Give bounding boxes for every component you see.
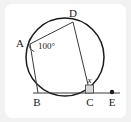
label-D: D xyxy=(69,7,77,19)
point-marker-E xyxy=(110,90,114,94)
label-angle-100: 100° xyxy=(38,41,56,51)
geometry-figure: A B C D E 100° x xyxy=(0,0,131,122)
label-C: C xyxy=(86,96,93,108)
label-B: B xyxy=(33,96,40,108)
label-E: E xyxy=(109,96,116,108)
label-angle-x: x xyxy=(87,75,92,85)
label-A: A xyxy=(16,37,24,49)
geometry-canvas: A B C D E 100° x xyxy=(0,0,131,122)
circumcircle xyxy=(26,18,104,96)
right-angle-square-C xyxy=(86,85,94,93)
